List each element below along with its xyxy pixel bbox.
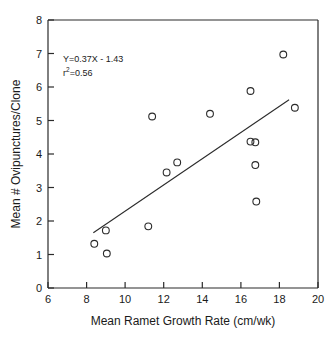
y-tick-label-8: 8 [36, 14, 42, 26]
x-tick-label-18: 18 [273, 293, 285, 305]
x-tick-label-10: 10 [119, 293, 131, 305]
scatter-plot-figure: 0 1 2 3 4 5 6 7 8 6 8 10 12 14 16 18 [0, 0, 336, 341]
y-tick-label-7: 7 [36, 48, 42, 60]
y-tick-label-6: 6 [36, 81, 42, 93]
y-tick-label-3: 3 [36, 182, 42, 194]
r-value: =0.56 [70, 68, 93, 78]
x-tick-label-14: 14 [196, 293, 208, 305]
y-tick-label-1: 1 [36, 249, 42, 261]
regression-equation-label: Y=0.37X - 1.43 [63, 54, 123, 64]
x-axis-title: Mean Ramet Growth Rate (cm/wk) [91, 314, 276, 328]
x-tick-label-6: 6 [45, 293, 51, 305]
y-tick-label-0: 0 [36, 282, 42, 294]
y-tick-label-4: 4 [36, 148, 42, 160]
x-tick-label-20: 20 [312, 293, 324, 305]
x-tick-label-8: 8 [84, 293, 90, 305]
figure-background [0, 0, 336, 341]
x-tick-label-16: 16 [235, 293, 247, 305]
y-tick-label-5: 5 [36, 115, 42, 127]
y-tick-label-2: 2 [36, 215, 42, 227]
x-tick-label-12: 12 [158, 293, 170, 305]
plot-canvas: 0 1 2 3 4 5 6 7 8 6 8 10 12 14 16 18 [0, 0, 336, 341]
y-axis-title: Mean # Ovipunctures/Clone [9, 79, 23, 228]
